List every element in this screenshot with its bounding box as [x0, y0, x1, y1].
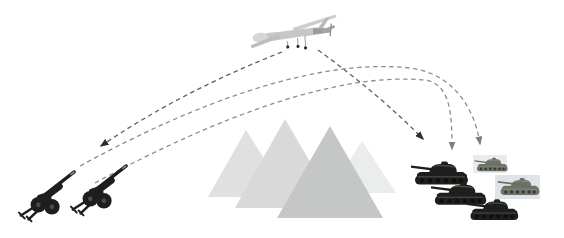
uav-drone: [249, 15, 338, 53]
sensor-link-artillery-arrow: [101, 52, 282, 146]
sensor-link-tanks-arrow: [318, 50, 423, 139]
tank-dark-1: [411, 162, 468, 185]
tank-dark-2: [431, 182, 486, 204]
mountain-range: [208, 119, 396, 218]
howitzer-2: [71, 166, 126, 215]
battlefield-diagram: [0, 0, 564, 238]
tank-group: [411, 155, 540, 220]
howitzer-1: [19, 172, 74, 221]
